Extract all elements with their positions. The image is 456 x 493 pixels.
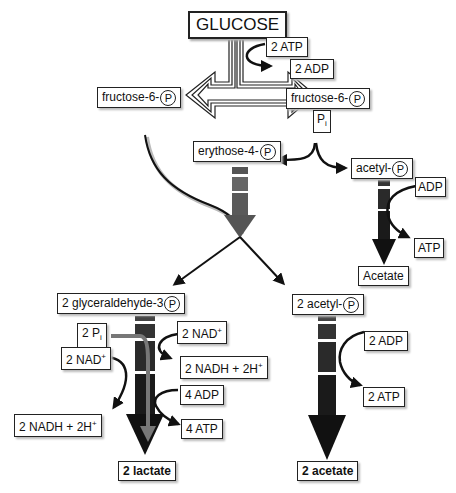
node-adp-output: 2 ADP (290, 59, 334, 79)
node-4-atp: 4 ATP (181, 419, 223, 439)
atp-small-label: ATP (418, 241, 440, 255)
nad-left-charge: + (101, 352, 106, 361)
glycolysis-arrow (111, 316, 164, 455)
pi-to-acetyl (316, 143, 345, 168)
node-atp-small: ATP (414, 238, 444, 258)
erythrose-arrow (224, 167, 256, 238)
adp-to-atp-curve-small (387, 186, 416, 237)
node-lactate: 2 lactate (118, 461, 176, 481)
node-2-acetyl-p: 2 acetyl-P (292, 294, 364, 315)
node-2-adp: 2 ADP (364, 331, 408, 351)
split-line-left (175, 237, 240, 284)
adp2-label: 2 ADP (369, 334, 403, 348)
adp-small-label: ADP (418, 180, 443, 194)
node-erythrose-4-p: erythose-4-P (193, 141, 281, 162)
two-pi-subscript: i (100, 333, 102, 342)
nadh-left-label: 2 NADH + 2H (19, 420, 92, 434)
node-glucose: GLUCOSE (188, 11, 287, 39)
node-nadh-right: 2 NADH + 2H+ (180, 356, 268, 379)
pi-label: P (317, 112, 325, 126)
nad-left-label: 2 NAD (66, 353, 101, 367)
node-nad-left: 2 NAD+ (61, 347, 111, 370)
node-fructose-6-p-left: fructose-6-P (97, 87, 181, 108)
node-adp-small: ADP (415, 177, 446, 197)
nad-right-charge: + (217, 326, 222, 335)
node-fructose-6-p-right: fructose-6-P (286, 88, 370, 109)
node-glyceraldehyde-3-p: 2 glyceraldehyde-3P (57, 293, 185, 314)
adp4-label: 4 ADP (185, 388, 219, 402)
node-nad-right: 2 NAD+ (177, 321, 227, 344)
acetyl-acetate-arrow (372, 180, 396, 265)
phosphate-icon: P (343, 297, 359, 313)
phosphate-icon: P (164, 296, 180, 312)
g3p-label: 2 glyceraldehyde-3 (62, 296, 163, 310)
node-acetate: Acetate (358, 266, 409, 286)
split-line-right (240, 237, 283, 283)
fructose-right-label: fructose-6- (291, 91, 348, 105)
nadh-right-charge: + (258, 361, 263, 370)
atp4-label: 4 ATP (186, 422, 218, 436)
node-acetyl-p: acetyl-P (351, 158, 413, 179)
glucose-label: GLUCOSE (196, 15, 279, 34)
erythrose-label: erythose-4- (198, 144, 259, 158)
two-pi-label: 2 P (82, 326, 100, 340)
nadh-right-label: 2 NADH + 2H (185, 362, 258, 376)
nad-right-label: 2 NAD (182, 327, 217, 341)
acetate-label: Acetate (363, 269, 404, 283)
fructose-left-label: fructose-6- (102, 90, 159, 104)
phosphate-icon: P (349, 91, 365, 107)
pi-subscript: i (325, 119, 327, 128)
adp-output-label: 2 ADP (295, 62, 329, 76)
acetyl2-label: 2 acetyl- (297, 297, 342, 311)
node-4-adp: 4 ADP (180, 385, 224, 405)
phosphate-icon: P (260, 144, 276, 160)
atp2-label: 2 ATP (368, 390, 400, 404)
pi-to-erythrose (278, 143, 315, 160)
acetyl-p-label: acetyl- (356, 161, 391, 175)
acetate2-label: 2 acetate (302, 464, 353, 478)
node-2-acetate: 2 acetate (297, 461, 358, 481)
phosphate-icon: P (160, 90, 176, 106)
node-2-pi: 2 Pi (77, 323, 107, 348)
node-nadh-left: 2 NADH + 2H+ (14, 414, 102, 437)
phosphate-icon: P (392, 161, 408, 177)
node-2-atp: 2 ATP (363, 387, 405, 407)
acetate-arrow (308, 316, 346, 460)
nadh-left-charge: + (92, 419, 97, 428)
node-atp-input: 2 ATP (266, 37, 308, 57)
node-pi: Pi (313, 110, 331, 133)
atp-input-label: 2 ATP (271, 40, 303, 54)
pathway-diagram: GLUCOSE 2 ATP 2 ADP fructose-6-P fructos… (0, 0, 456, 493)
lactate-label: 2 lactate (123, 464, 171, 478)
